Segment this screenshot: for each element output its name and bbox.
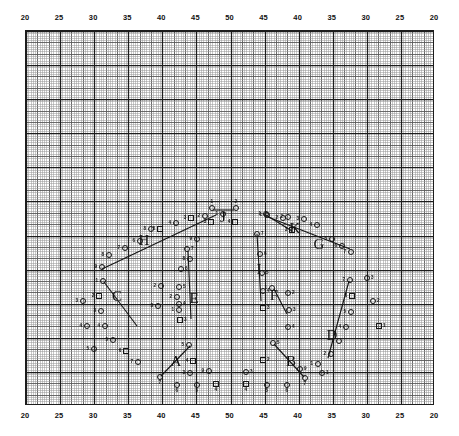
axis-bottom-tick-4: 40 — [157, 412, 166, 420]
axis-bottom-tick-1: 25 — [55, 412, 64, 420]
data-marker — [314, 222, 320, 228]
axis-bottom-tick-9: 35 — [327, 412, 336, 420]
marker-number: 1 — [172, 308, 175, 313]
data-marker — [135, 359, 141, 365]
data-marker — [349, 293, 355, 299]
marker-number: 5 — [266, 389, 269, 394]
marker-number: 7 — [131, 360, 134, 365]
marker-number: 8 — [144, 227, 147, 232]
data-marker — [243, 369, 249, 375]
marker-number: 7 — [118, 246, 121, 251]
group-label-I: I — [257, 262, 262, 277]
data-marker — [123, 348, 129, 354]
data-marker — [370, 298, 376, 304]
marker-number: 4 — [80, 324, 83, 329]
marker-number: 5 — [106, 338, 109, 343]
axis-top-tick-9: 35 — [327, 14, 336, 22]
data-marker — [343, 324, 349, 330]
marker-number: 5 — [182, 343, 185, 348]
marker-number: 3 — [151, 304, 154, 309]
marker-number: 6 — [119, 349, 122, 354]
data-marker — [102, 323, 108, 329]
data-marker — [99, 264, 105, 270]
group-label-C: C — [112, 289, 122, 304]
axis-bottom-tick-7: 45 — [259, 412, 268, 420]
marker-number: 4 — [228, 220, 231, 225]
group-label-B: B — [286, 354, 296, 369]
marker-number: 1 — [211, 200, 214, 205]
marker-number: 6 — [345, 294, 348, 299]
marker-number: 5 — [266, 271, 269, 276]
marker-number: 6 — [335, 244, 338, 249]
marker-number: 2 — [154, 284, 157, 289]
data-marker — [194, 236, 200, 242]
marker-number: 2 — [276, 216, 279, 221]
axis-top-tick-8: 40 — [293, 14, 302, 22]
marker-number: 7 — [261, 232, 264, 237]
data-marker — [100, 278, 106, 284]
marker-number: 3 — [204, 220, 207, 225]
marker-number: 3 — [184, 318, 187, 323]
marker-number: 1 — [326, 371, 329, 376]
axis-top-tick-11: 25 — [396, 14, 405, 22]
marker-number: 7 — [159, 381, 162, 386]
marker-number: 3 — [250, 370, 253, 375]
data-marker — [315, 361, 321, 367]
axis-bottom-tick-0: 20 — [21, 412, 30, 420]
data-marker — [347, 277, 353, 283]
axis-top-tick-0: 20 — [21, 14, 30, 22]
data-marker — [286, 307, 292, 313]
marker-number: 4 — [98, 324, 101, 329]
marker-number: 3 — [285, 228, 288, 233]
plot-area: 123456789H1234567G1234J123K76543I7654321… — [25, 30, 434, 405]
data-marker — [233, 205, 239, 211]
axis-top-tick-5: 45 — [191, 14, 200, 22]
data-marker — [254, 231, 260, 237]
marker-number: 4 — [310, 223, 313, 228]
data-marker — [184, 246, 190, 252]
group-label-G: G — [314, 237, 325, 252]
marker-number: 7 — [344, 250, 347, 255]
data-marker — [301, 216, 307, 222]
marker-number: 1 — [216, 212, 219, 217]
data-marker — [206, 368, 212, 374]
marker-number: 4 — [183, 302, 186, 307]
marker-number: 9 — [202, 369, 205, 374]
data-marker — [96, 293, 102, 299]
data-marker — [157, 226, 163, 232]
marker-number: 4 — [215, 388, 218, 393]
marker-number: 3 — [94, 309, 97, 314]
data-marker — [155, 303, 161, 309]
marker-number: 3 — [184, 216, 187, 221]
data-marker — [260, 305, 266, 311]
marker-number: 3 — [183, 371, 186, 376]
data-marker — [174, 294, 180, 300]
marker-number: 2 — [377, 299, 380, 304]
marker-number: 2 — [324, 352, 327, 357]
marker-number: 3 — [371, 276, 374, 281]
data-marker — [297, 366, 303, 372]
data-marker — [232, 219, 238, 225]
axis-bottom-tick-12: 20 — [430, 412, 439, 420]
group-label-E: E — [189, 291, 198, 306]
data-marker — [98, 308, 104, 314]
data-markers-layer: 123456789H1234567G1234J123K76543I7654321… — [26, 31, 433, 404]
data-marker — [110, 337, 116, 343]
axis-bottom-tick-5: 45 — [191, 412, 200, 420]
data-marker — [319, 370, 325, 376]
marker-number: 2 — [235, 200, 238, 205]
data-marker — [188, 215, 194, 221]
data-marker — [176, 284, 182, 290]
data-marker — [190, 358, 196, 364]
marker-number: 7 — [304, 382, 307, 387]
marker-number: 6 — [286, 389, 289, 394]
data-marker — [260, 357, 266, 363]
axis-bottom-tick-2: 30 — [89, 412, 98, 420]
data-marker — [187, 256, 193, 262]
data-marker — [348, 309, 354, 315]
data-marker — [173, 220, 179, 226]
marker-number: 4 — [292, 325, 295, 330]
data-marker — [285, 324, 291, 330]
group-label-D: D — [327, 328, 338, 343]
axis-bottom-tick-8: 40 — [293, 412, 302, 420]
